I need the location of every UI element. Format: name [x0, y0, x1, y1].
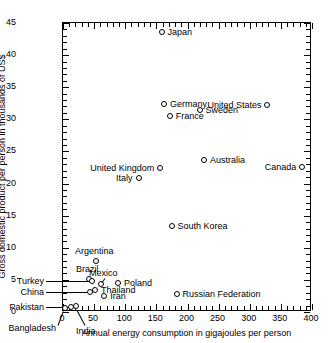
x-tick-top — [312, 23, 313, 29]
x-tick — [194, 306, 195, 310]
data-point-united-kingdom — [157, 165, 163, 171]
y-tick-right — [304, 248, 310, 249]
x-tick — [268, 306, 269, 310]
y-tick-label-45: 45 — [6, 18, 16, 27]
x-tick-top — [119, 23, 120, 27]
scatter-chart: Gross domestic product per person in tho… — [0, 0, 332, 343]
x-tick-top — [75, 23, 76, 27]
y-tick-right — [304, 55, 310, 56]
y-tick-right — [306, 190, 310, 191]
y-tick — [63, 241, 67, 242]
y-tick-right — [306, 273, 310, 274]
point-label-iran: Iran — [110, 292, 126, 301]
point-label-bangladesh: Bangladesh — [8, 324, 56, 333]
point-label-argentina: Argentina — [75, 246, 114, 255]
x-tick — [225, 306, 226, 310]
data-point-australia — [201, 157, 207, 163]
point-label-china: China — [20, 287, 44, 296]
point-label-south-korea: South Korea — [178, 222, 228, 231]
point-label-france: France — [176, 112, 204, 121]
x-tick — [256, 306, 257, 310]
y-tick-right — [306, 113, 310, 114]
x-tick — [287, 306, 288, 310]
data-point-canada — [299, 164, 305, 170]
y-tick — [63, 254, 67, 255]
y-tick-right — [306, 209, 310, 210]
data-point-united-states — [264, 102, 270, 108]
x-tick-top — [275, 23, 276, 27]
x-tick — [138, 306, 139, 310]
point-label-turkey: Turkey — [17, 277, 44, 286]
data-point-china — [87, 289, 93, 295]
y-axis-title: Gross domestic product per person in tho… — [0, 22, 9, 311]
x-tick — [300, 306, 301, 310]
x-tick — [250, 304, 251, 310]
x-tick — [244, 306, 245, 310]
data-point-south-korea — [169, 223, 175, 229]
x-tick-top — [287, 23, 288, 27]
data-point-japan — [159, 29, 165, 35]
point-label-australia: Australia — [210, 156, 245, 165]
x-tick — [100, 306, 101, 310]
x-tick — [206, 306, 207, 310]
y-tick-right — [306, 106, 310, 107]
x-tick — [82, 306, 83, 310]
y-tick-right — [306, 286, 310, 287]
y-tick-right — [306, 261, 310, 262]
y-tick — [63, 55, 69, 56]
x-tick — [175, 306, 176, 310]
leader-line-china — [46, 292, 87, 293]
y-tick-right — [306, 36, 310, 37]
x-tick-top — [212, 23, 213, 27]
x-tick — [262, 306, 263, 310]
x-tick-label-400: 400 — [303, 314, 318, 323]
y-tick-right — [306, 81, 310, 82]
x-tick-label-150: 150 — [148, 314, 163, 323]
y-tick — [63, 126, 67, 127]
x-tick — [107, 306, 108, 310]
y-tick-right — [306, 68, 310, 69]
x-tick-top — [200, 23, 201, 27]
x-tick — [181, 306, 182, 310]
y-tick-right — [306, 29, 310, 30]
y-tick-right — [306, 299, 310, 300]
y-tick — [63, 267, 67, 268]
x-tick-top — [250, 23, 251, 29]
y-tick — [63, 177, 67, 178]
y-tick-right — [306, 49, 310, 50]
x-tick-top — [231, 23, 232, 27]
x-tick-top — [125, 23, 126, 29]
x-tick-top — [144, 23, 145, 27]
data-point-india — [73, 303, 79, 309]
point-label-india: India — [76, 327, 96, 336]
data-point-russian-federation — [174, 291, 180, 297]
point-label-russian-federation: Russian Federation — [183, 290, 261, 299]
data-point-bangladesh — [62, 305, 68, 311]
y-tick-right — [304, 87, 310, 88]
data-point-germany — [161, 101, 167, 107]
x-tick — [144, 306, 145, 310]
y-tick — [63, 100, 67, 101]
x-tick-label-50: 50 — [88, 314, 98, 323]
point-label-italy: Italy — [116, 174, 133, 183]
x-tick-top — [244, 23, 245, 27]
y-tick-right — [306, 235, 310, 236]
point-label-united-states: United States — [207, 100, 261, 109]
x-tick-top — [88, 23, 89, 27]
y-tick — [63, 119, 69, 120]
y-tick — [63, 81, 67, 82]
x-tick-top — [293, 23, 294, 27]
y-tick-right — [306, 267, 310, 268]
y-tick — [63, 106, 67, 107]
x-tick-top — [63, 23, 64, 29]
data-point-iran — [101, 293, 107, 299]
y-tick — [63, 216, 69, 217]
x-tick — [237, 306, 238, 310]
y-tick-right — [304, 119, 310, 120]
y-tick-right — [304, 184, 310, 185]
data-point-france — [167, 113, 173, 119]
y-tick-right — [306, 42, 310, 43]
x-tick-top — [100, 23, 101, 27]
point-label-germany: Germany — [170, 99, 207, 108]
x-tick-top — [256, 23, 257, 27]
